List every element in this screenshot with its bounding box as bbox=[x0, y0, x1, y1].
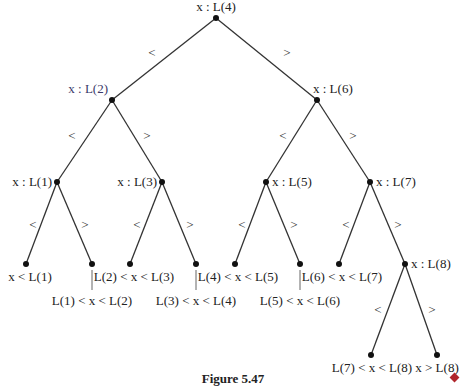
node-label-l2: x : L(2) bbox=[68, 81, 108, 96]
edge-label-less: < bbox=[148, 45, 155, 60]
leaf-label: L(2) < x < L(3) bbox=[94, 269, 174, 284]
edge-label-less: < bbox=[342, 217, 349, 232]
node-label-l5: x : L(5) bbox=[272, 174, 312, 189]
leaf-label: L(4) < x < L(5) bbox=[198, 269, 278, 284]
node-label-l1: x : L(1) bbox=[12, 174, 52, 189]
leaf-label: L(1) < x < L(2) bbox=[52, 293, 132, 308]
decision-tree-diagram: x : L(4) x : L(2) x : L(6) x : L(1) x : … bbox=[0, 0, 462, 386]
leaf-label: L(6) < x < L(7) bbox=[302, 269, 382, 284]
leaf-label: L(7) < x < L(8) bbox=[332, 360, 412, 375]
figure-caption: Figure 5.47 bbox=[202, 371, 265, 386]
node-label-l4: x : L(4) bbox=[196, 0, 236, 14]
edge-label-greater: > bbox=[428, 302, 435, 317]
edge-label-greater: > bbox=[143, 128, 150, 143]
edge-label-greater: > bbox=[290, 217, 297, 232]
edge-label-greater: > bbox=[394, 217, 401, 232]
edge-label-greater: > bbox=[81, 217, 88, 232]
edge-label-less: < bbox=[279, 128, 286, 143]
edge-label-less: < bbox=[238, 217, 245, 232]
node-label-l3: x : L(3) bbox=[117, 174, 157, 189]
edge-label-greater: > bbox=[283, 45, 290, 60]
edge-label-greater: > bbox=[186, 217, 193, 232]
node-label-l7: x : L(7) bbox=[376, 174, 416, 189]
edge-label-less: < bbox=[133, 217, 140, 232]
leaf-label: x > L(8) bbox=[415, 360, 458, 375]
edge-label-less: < bbox=[68, 128, 75, 143]
leaf-label: L(3) < x < L(4) bbox=[156, 293, 236, 308]
leaf-label: L(5) < x < L(6) bbox=[260, 293, 340, 308]
edge-label-greater: > bbox=[349, 128, 356, 143]
node-label-l8: x : L(8) bbox=[411, 256, 451, 271]
edge-label-less: < bbox=[374, 302, 381, 317]
node-label-l6: x : L(6) bbox=[313, 81, 353, 96]
edge-label-less: < bbox=[29, 217, 36, 232]
leaf-label: x < L(1) bbox=[8, 269, 51, 284]
